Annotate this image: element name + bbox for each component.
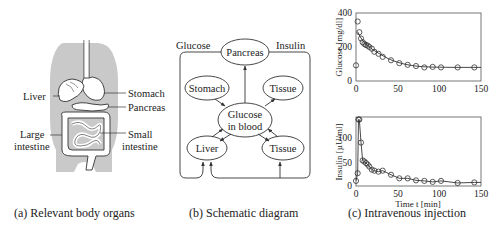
glucose-xtick-0: 0 — [354, 84, 359, 94]
glucose-ytick-0: 0 — [347, 76, 352, 86]
insulin-xtick-100: 100 — [432, 189, 447, 199]
insulin-ytick-0: 0 — [347, 181, 352, 191]
label-large-intestine-line2: intestine — [14, 141, 50, 152]
glucose-ytick-200: 200 — [338, 42, 353, 52]
node-label-tissue-bottom: Tissue — [269, 143, 296, 154]
edge-label-glucose: Glucose — [176, 40, 211, 51]
panel-c-plots: Glucose [mg/dl] 0 200 400 0 50 100 150 I… — [334, 8, 488, 220]
label-small-intestine-line1: Small — [128, 129, 153, 140]
insulin-xtick-50: 50 — [393, 189, 403, 199]
glucose-xtick-100: 100 — [432, 84, 447, 94]
insulin-ytick-50: 50 — [343, 158, 353, 168]
node-label-liver: Liver — [196, 143, 219, 154]
label-stomach: Stomach — [128, 88, 165, 99]
insulin-xtick-0: 0 — [354, 189, 359, 199]
insulin-data-series — [353, 117, 481, 186]
label-large-intestine-line1: Large — [20, 129, 45, 140]
panel-a-body-organs: Liver Stomach Pancreas Large intestine S… — [14, 40, 165, 220]
glucose-ytick-400: 400 — [338, 8, 353, 18]
node-label-glucose-line1: Glucose — [228, 109, 263, 120]
node-label-stomach: Stomach — [189, 83, 226, 94]
glucose-plot-frame — [356, 13, 481, 81]
glucose-xtick-150: 150 — [474, 84, 489, 94]
node-label-tissue-top: Tissue — [269, 83, 296, 94]
glucose-xtick-50: 50 — [393, 84, 403, 94]
label-small-intestine-line2: intestine — [122, 141, 158, 152]
label-pancreas: Pancreas — [128, 102, 165, 113]
node-label-pancreas: Pancreas — [226, 47, 263, 58]
data-point-marker — [422, 65, 427, 70]
node-label-glucose-line2: in blood — [228, 121, 263, 132]
glucose-data-series — [353, 19, 481, 70]
insulin-ytick-100: 100 — [338, 133, 353, 143]
insulin-plot-frame — [356, 117, 481, 186]
caption-c: (c) Intravenous injection — [348, 206, 466, 220]
panel-b-text: Glucose Insulin Pancreas Stomach Tissue … — [176, 40, 306, 220]
caption-b: (b) Schematic diagram — [189, 206, 299, 220]
insulin-xtick-150: 150 — [474, 189, 489, 199]
caption-a: (a) Relevant body organs — [14, 206, 135, 220]
label-liver: Liver — [23, 91, 46, 102]
edge-label-insulin: Insulin — [276, 40, 306, 51]
